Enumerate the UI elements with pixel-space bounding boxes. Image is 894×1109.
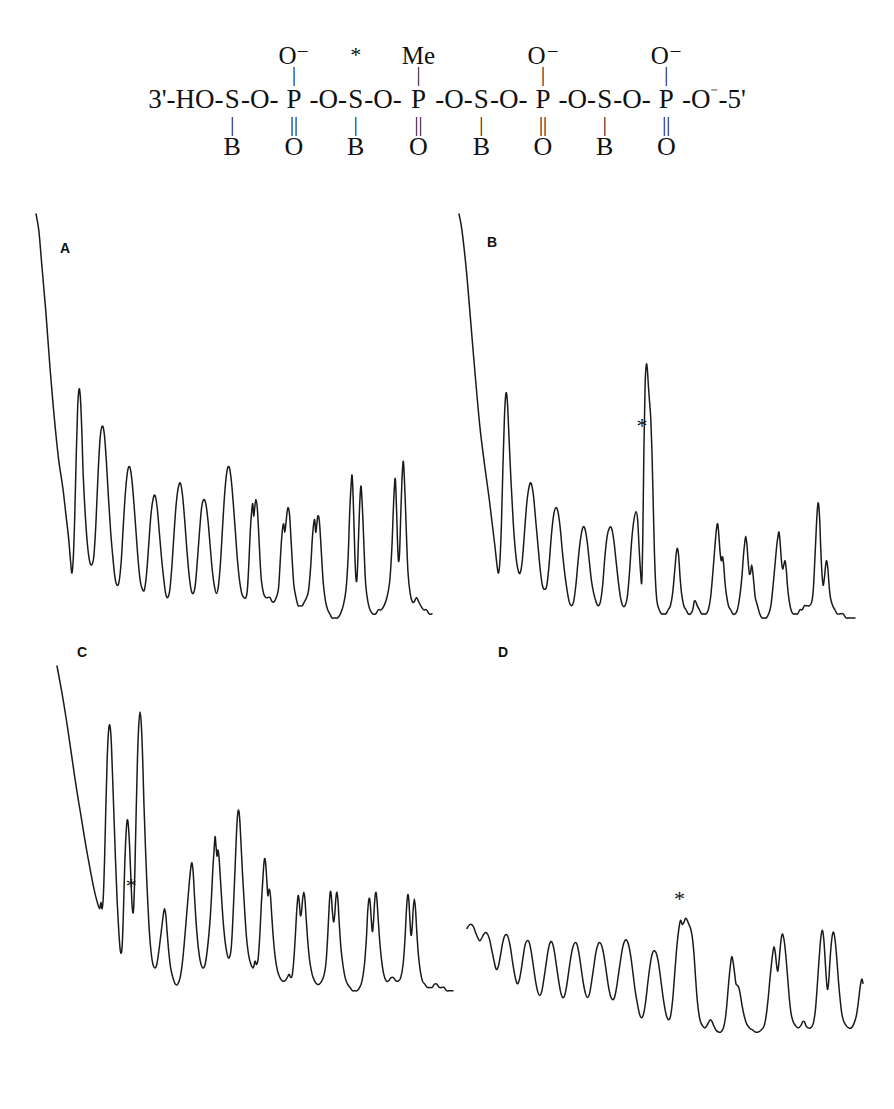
chem-unit-2-atom: S (348, 86, 363, 113)
chemical-structure: 3'-HO- S | B -O- O⁻ | P || O (0, 44, 894, 162)
chem-unit-7-bottom: O (657, 134, 676, 160)
chem-unit-7-bottom-bond: || (662, 114, 670, 134)
panel-D (465, 825, 865, 1040)
chem-unit-7: O⁻ | P || O (651, 44, 682, 162)
chem-link-2: -O- (364, 44, 401, 162)
chem-asterisk-marker: * (350, 44, 361, 66)
chem-unit-6-bottom: B (596, 134, 613, 160)
chem-unit-6-atom: S (597, 86, 612, 113)
chem-unit-0-bottom-bond: | (230, 114, 234, 134)
panel-A-trace-svg (34, 208, 434, 628)
chem-terminus-o: -O (682, 84, 711, 114)
panel-D-trace-path (467, 918, 863, 1032)
chem-unit-0-atom: S (225, 86, 240, 113)
chem-right-terminus: -O⁻-5' (682, 44, 746, 162)
chem-link-4: -O- (490, 44, 527, 162)
panel-B-asterisk: * (637, 415, 648, 437)
chem-unit-7-top-bond: | (664, 64, 668, 84)
chem-link-6-text: -O- (613, 86, 650, 113)
chem-link-0-text: -O- (241, 86, 278, 113)
chem-unit-3-bottom-bond: || (414, 114, 422, 134)
chem-link-3-text: -O- (435, 86, 472, 113)
chem-link-2-text: -O- (364, 86, 401, 113)
chem-link-5-text: -O- (559, 86, 596, 113)
chem-unit-3-atom: P (411, 86, 426, 113)
chem-unit-2-bottom: B (347, 134, 364, 160)
panel-label-B: B (487, 234, 497, 250)
panel-C-trace-svg (55, 660, 455, 1000)
chem-unit-1-atom: P (286, 86, 301, 113)
chem-unit-4-atom: S (474, 86, 489, 113)
chem-link-4-text: -O- (490, 86, 527, 113)
chemical-structure-grid: 3'-HO- S | B -O- O⁻ | P || O (148, 44, 746, 162)
panel-label-A: A (60, 240, 70, 256)
chem-unit-5-bottom: O (534, 134, 553, 160)
panel-A (34, 208, 434, 628)
chem-unit-0-bottom: B (224, 134, 241, 160)
chem-unit-5: O⁻ | P || O (527, 44, 558, 162)
chem-link-1-text: -O- (310, 86, 347, 113)
chem-unit-3-bottom: O (409, 134, 428, 160)
chem-unit-5-bottom-bond: || (539, 114, 547, 134)
chem-unit-1-bottom-bond: || (290, 114, 298, 134)
chem-link-1: -O- (310, 44, 347, 162)
chem-unit-6-bottom-bond: | (603, 114, 607, 134)
panel-A-trace-path (36, 214, 432, 618)
chem-unit-2: * S | B (347, 44, 364, 162)
chem-terminus-5prime: -5' (718, 84, 745, 114)
panel-C-asterisk: * (126, 875, 137, 897)
chem-link-5: -O- (559, 44, 596, 162)
chem-unit-1-top-bond: | (292, 64, 296, 84)
panel-label-C: C (77, 644, 87, 660)
chem-link-0: -O- (241, 44, 278, 162)
panel-C-trace-path (57, 666, 453, 991)
chem-link-3: -O- (435, 44, 472, 162)
chem-unit-2-bottom-bond: | (354, 114, 358, 134)
chem-terminus-3prime: 3'-HO- (148, 86, 223, 113)
chem-unit-4-bottom-bond: | (479, 114, 483, 134)
panel-D-asterisk: * (674, 888, 685, 910)
chem-link-6: -O- (613, 44, 650, 162)
panel-B (457, 208, 857, 628)
chem-unit-1: O⁻ | P || O (278, 44, 309, 162)
panel-B-trace-svg (457, 208, 857, 628)
panel-D-trace-svg (465, 825, 865, 1040)
panel-B-trace-path (459, 214, 855, 618)
panel-label-D: D (498, 644, 508, 660)
chem-unit-1-bottom: O (285, 134, 304, 160)
chem-unit-5-atom: P (535, 86, 550, 113)
chem-left-terminus: 3'-HO- (148, 44, 223, 162)
chem-unit-7-atom: P (659, 86, 674, 113)
chem-unit-6: S | B (596, 44, 613, 162)
chem-unit-3-top-bond: | (416, 64, 420, 84)
chem-unit-4-bottom: B (473, 134, 490, 160)
chem-unit-0: S | B (224, 44, 241, 162)
chem-unit-3: Me | P || O (402, 44, 435, 162)
panel-C (55, 660, 455, 1000)
chem-unit-5-top-bond: | (541, 64, 545, 84)
chem-unit-4: S | B (473, 44, 490, 162)
